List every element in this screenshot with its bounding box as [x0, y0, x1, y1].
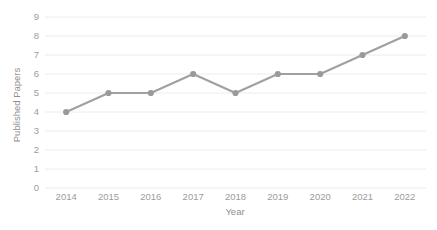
- chart-canvas: 0123456789 20142015201620172018201920202…: [0, 0, 437, 230]
- data-point-marker: [232, 90, 238, 96]
- y-axis-tick-label: 1: [34, 163, 39, 174]
- data-point-marker: [275, 71, 281, 77]
- data-point-marker: [402, 33, 408, 39]
- x-axis-title: Year: [225, 206, 244, 217]
- y-axis-tick-label: 3: [34, 125, 39, 136]
- data-point-marker: [317, 71, 323, 77]
- x-axis-tick-label: 2014: [56, 191, 77, 202]
- y-axis-tick-label: 0: [34, 182, 39, 193]
- x-axis-tick-label: 2017: [183, 191, 204, 202]
- y-axis-tick-label: 7: [34, 49, 39, 60]
- x-axis-tick-label: 2015: [98, 191, 119, 202]
- x-axis-tick-label: 2022: [394, 191, 415, 202]
- x-axis-tick-label: 2020: [310, 191, 331, 202]
- data-point-marker: [359, 52, 365, 58]
- y-axis-title: Published Papers: [11, 68, 22, 143]
- x-axis-tick-label: 2021: [352, 191, 373, 202]
- y-axis-tick-label: 6: [34, 68, 39, 79]
- line-chart: 0123456789 20142015201620172018201920202…: [0, 0, 437, 230]
- y-axis-tick-label: 8: [34, 30, 39, 41]
- y-axis-tick-label: 4: [34, 106, 39, 117]
- y-axis-tick-label: 9: [34, 11, 39, 22]
- data-point-marker: [148, 90, 154, 96]
- data-point-marker: [190, 71, 196, 77]
- y-axis-tick-label: 2: [34, 144, 39, 155]
- x-axis-tick-label: 2018: [225, 191, 246, 202]
- x-axis-tick-label: 2016: [140, 191, 161, 202]
- x-axis-tick-label: 2019: [267, 191, 288, 202]
- x-axis-tick-labels: 201420152016201720182019202020212022: [56, 191, 416, 202]
- y-axis-tick-label: 5: [34, 87, 39, 98]
- data-point-marker: [63, 109, 69, 115]
- data-point-marker: [105, 90, 111, 96]
